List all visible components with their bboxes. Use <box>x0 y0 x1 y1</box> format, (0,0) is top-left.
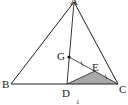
geometry-figure: A B C D E G 1 <box>0 0 128 105</box>
figure-caption: 1 <box>76 98 80 105</box>
label-a: A <box>70 0 78 7</box>
label-e: E <box>92 61 99 73</box>
label-d: D <box>62 87 70 99</box>
label-g: G <box>57 50 65 62</box>
segment-ab <box>11 2 74 84</box>
point-g-dot <box>67 55 70 58</box>
label-c: C <box>119 83 126 95</box>
label-b: B <box>2 78 9 90</box>
segment-ad <box>67 2 74 84</box>
